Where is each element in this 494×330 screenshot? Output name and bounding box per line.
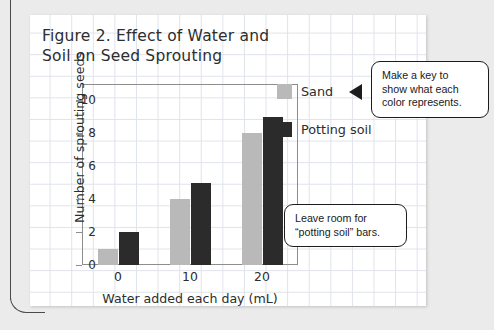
callout-key-line-3: color represents. (382, 96, 479, 110)
x-tick-label: 20 (254, 269, 270, 284)
bar-sand-10 (170, 199, 190, 265)
legend-swatch-icon (277, 84, 292, 99)
legend-item: Sand (277, 84, 333, 99)
y-tick-mark (76, 133, 82, 134)
bar-sand-0 (98, 249, 118, 265)
y-tick-mark (76, 232, 82, 233)
bar-potting-soil-0 (119, 232, 139, 265)
y-tick-mark (76, 199, 82, 200)
x-axis-label: Water added each day (mL) (82, 291, 298, 306)
callout-room-line-2: “potting soil” bars. (295, 226, 397, 240)
callout-arrow-icon (349, 84, 362, 100)
y-tick-mark (76, 166, 82, 167)
legend-label: Potting soil (301, 122, 372, 137)
callout-key-line-2: show what each (382, 83, 479, 97)
callout-key-line-1: Make a key to (382, 69, 479, 83)
legend-swatch-icon (277, 122, 292, 137)
y-tick-mark (76, 265, 82, 266)
callout-room-line-1: Leave room for (295, 212, 397, 226)
bar-chart: Number of sprouting seeds 0246810 01020 … (40, 84, 270, 279)
callout-make-a-key: Make a key to show what each color repre… (371, 61, 489, 118)
x-tick-label: 10 (182, 269, 198, 284)
bar-potting-soil-20 (263, 117, 283, 265)
callout-leave-room: Leave room for “potting soil” bars. (284, 204, 407, 247)
y-tick-mark (76, 100, 82, 101)
bar-sand-20 (242, 133, 262, 265)
legend-label: Sand (301, 84, 333, 99)
legend-item: Potting soil (277, 122, 372, 137)
bar-potting-soil-10 (191, 183, 211, 265)
x-tick-label: 0 (114, 269, 122, 284)
